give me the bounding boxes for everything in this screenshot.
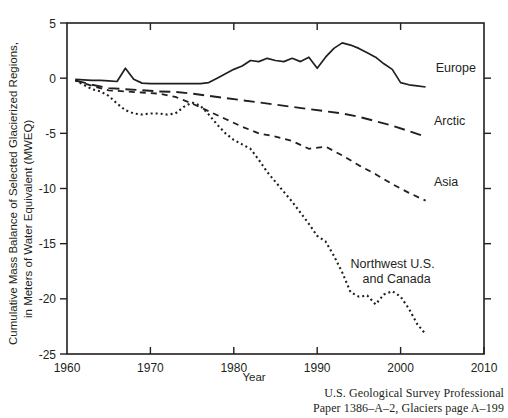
series-label-northwest-u-s-and-canada-line1: Northwest U.S. <box>351 257 435 271</box>
x-tick-label: 1990 <box>304 361 331 375</box>
y-tick-label: -15 <box>39 237 57 251</box>
y-axis-title-line1: Cumulative Mass Balance of Selected Glac… <box>7 42 19 345</box>
y-axis: 50-5-10-15-20-25 <box>39 17 491 362</box>
series-line-europe <box>75 43 425 87</box>
source-note-line-2: Paper 1386–A–2, Glaciers page A–199 <box>313 401 504 416</box>
series-label-europe: Europe <box>436 61 476 75</box>
x-tick-label: 1970 <box>137 361 164 375</box>
x-tick-label: 1960 <box>54 361 81 375</box>
y-tick-label: 0 <box>49 72 56 86</box>
series-label-arctic: Arctic <box>434 114 465 128</box>
series-line-asia <box>75 80 425 200</box>
x-tick-label: 2000 <box>387 361 414 375</box>
series-lines <box>75 43 425 334</box>
series-line-northwest-u-s-and-canada <box>75 80 425 334</box>
x-axis-title: Year <box>242 371 265 383</box>
y-tick-label: -10 <box>39 182 57 196</box>
y-axis-title-line2: in Meters of Water Equivalent (MWEQ) <box>22 120 34 318</box>
source-note: U.S. Geological Survey Professional Pape… <box>313 386 504 416</box>
y-tick-label: -25 <box>39 348 57 362</box>
y-tick-label: 5 <box>49 17 56 31</box>
glacier-mass-balance-chart: Cumulative Mass Balance of Selected Glac… <box>0 0 508 418</box>
series-label-asia: Asia <box>434 175 458 189</box>
series-line-arctic <box>75 80 425 136</box>
x-tick-label: 2010 <box>471 361 498 375</box>
series-label-northwest-u-s-and-canada-line2: and Canada <box>363 272 431 286</box>
y-tick-label: -5 <box>45 127 56 141</box>
source-note-line-1: U.S. Geological Survey Professional <box>313 386 504 401</box>
y-tick-label: -20 <box>39 292 57 306</box>
figure-container: Cumulative Mass Balance of Selected Glac… <box>0 0 508 418</box>
y-axis-title: Cumulative Mass Balance of Selected Glac… <box>7 42 34 345</box>
series-labels: EuropeArcticAsiaNorthwest U.S.and Canada <box>351 61 476 286</box>
